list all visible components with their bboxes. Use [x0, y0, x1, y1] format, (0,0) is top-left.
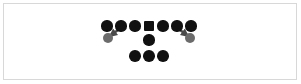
node-top-2-circle[interactable] — [115, 20, 126, 31]
node-top-4-square[interactable] — [144, 21, 154, 31]
diagram-canvas — [0, 0, 301, 84]
node-top-1-circle[interactable] — [101, 20, 112, 31]
diagram-screenshot — [0, 0, 301, 84]
node-top-5-circle[interactable] — [157, 20, 168, 31]
node-bottom-2-circle[interactable] — [143, 50, 155, 62]
node-middle-1-circle[interactable] — [143, 34, 154, 45]
node-bottom-1-circle[interactable] — [129, 50, 141, 62]
node-bottom-3-circle[interactable] — [157, 50, 169, 62]
node-top-6-circle[interactable] — [171, 20, 182, 31]
node-top-7-circle[interactable] — [185, 20, 196, 31]
node-top-3-circle[interactable] — [129, 20, 140, 31]
